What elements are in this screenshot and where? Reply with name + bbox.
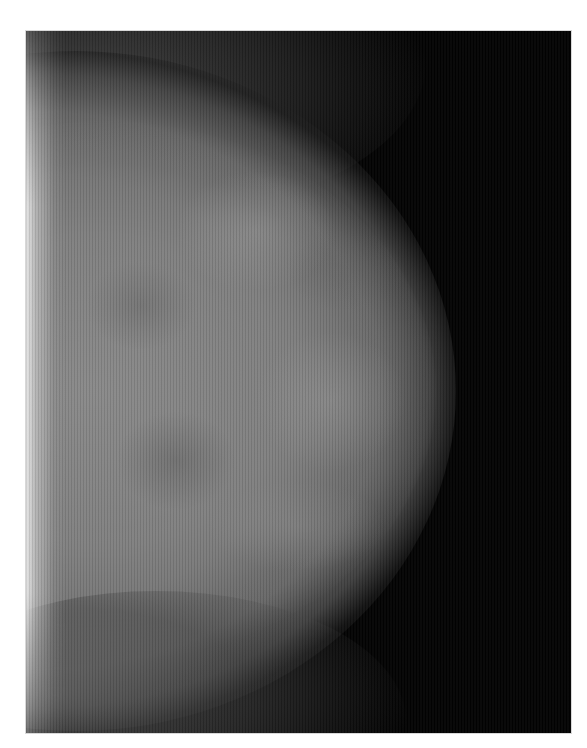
mammogram-image <box>26 31 571 733</box>
page <box>0 0 587 748</box>
chest-wall-edge <box>26 31 66 733</box>
